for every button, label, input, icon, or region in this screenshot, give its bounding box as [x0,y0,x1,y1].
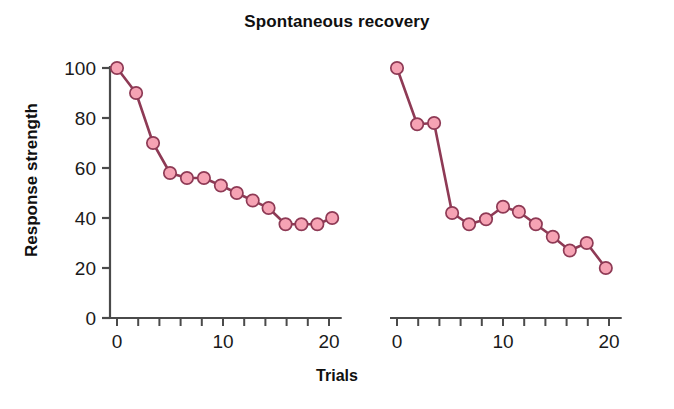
data-point-marker [497,201,509,213]
data-point-marker [513,206,525,218]
x-axis-tick-label: 20 [318,331,339,352]
data-point-marker [446,207,458,219]
data-point-marker [295,218,307,230]
data-point-marker [581,237,593,249]
x-axis-tick-label: 10 [492,331,513,352]
plot-area: 0204060801000102001020 [0,0,674,409]
data-point-marker [391,62,403,74]
data-point-marker [311,218,323,230]
x-axis-tick-label: 20 [598,331,619,352]
data-point-marker [147,137,159,149]
data-point-marker [130,87,142,99]
data-point-marker [246,194,258,206]
y-axis-tick-label: 60 [75,158,96,179]
data-point-marker [198,172,210,184]
data-point-marker [530,218,542,230]
y-axis-tick-label: 40 [75,208,96,229]
acquisition-extinction-panel [111,62,339,231]
data-point-marker [480,213,492,225]
y-axis-tick-label: 0 [85,308,96,329]
data-point-marker [215,179,227,191]
data-point-marker [164,167,176,179]
data-point-marker [262,202,274,214]
data-point-marker [547,231,559,243]
x-axis-tick-label: 0 [112,331,123,352]
data-point-marker [600,262,612,274]
data-point-marker [181,172,193,184]
data-point-marker [428,117,440,129]
series-line [397,68,606,268]
data-point-marker [231,187,243,199]
spontaneous-recovery-panel [391,62,612,274]
x-axis-tick-label: 10 [212,331,233,352]
data-point-marker [564,244,576,256]
y-axis-tick-label: 100 [64,58,96,79]
data-point-marker [326,212,338,224]
data-point-marker [411,118,423,130]
x-axis-tick-label: 0 [392,331,403,352]
y-axis-tick-label: 80 [75,108,96,129]
data-point-marker [279,218,291,230]
data-point-marker [111,62,123,74]
chart-figure: Spontaneous recovery Response strength T… [0,0,674,409]
y-axis-tick-label: 20 [75,258,96,279]
data-point-marker [463,218,475,230]
